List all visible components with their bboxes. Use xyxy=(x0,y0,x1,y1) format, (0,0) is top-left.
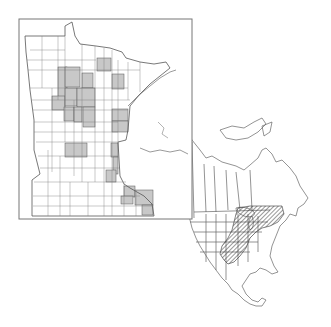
minnesota-frame xyxy=(19,19,192,219)
range-hatched-area xyxy=(220,206,284,264)
arctic-islands xyxy=(220,118,266,140)
distribution-figure xyxy=(0,0,331,327)
